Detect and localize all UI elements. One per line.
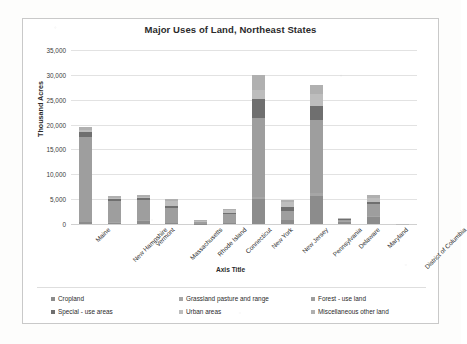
bar-segment [252, 90, 265, 99]
stacked-bar[interactable] [338, 218, 351, 224]
bar-slot [186, 50, 215, 224]
plot-area: 05,00010,00015,00020,00025,00030,00035,0… [71, 50, 417, 224]
y-axis-tick-label: 0 [62, 221, 66, 228]
stacked-bar[interactable] [310, 85, 323, 224]
bar-slot [71, 50, 100, 224]
gridline [71, 224, 417, 225]
y-axis-tick-label: 5,000 [50, 196, 66, 203]
bar-segment [310, 85, 323, 94]
y-axis-tick-label: 20,000 [46, 121, 66, 128]
legend-swatch-icon [179, 297, 183, 301]
stacked-bar[interactable] [108, 196, 121, 224]
legend-swatch-icon [311, 297, 315, 301]
bar-segment [281, 211, 294, 220]
x-axis-tick-label: New Hampshire [132, 226, 169, 263]
y-axis-tick-label: 25,000 [46, 96, 66, 103]
legend-label: Forest - use land [318, 295, 366, 302]
legend-label: Miscellaneous other land [318, 308, 389, 315]
legend-swatch-icon [179, 310, 183, 314]
stacked-bar[interactable] [137, 195, 150, 224]
stacked-bar[interactable] [79, 127, 92, 224]
x-axis-tick-label: New Jersey [301, 226, 330, 255]
bar-slot [330, 50, 359, 224]
legend-label: Special - use areas [58, 308, 113, 315]
stacked-bar[interactable] [165, 199, 178, 224]
bar-segment [223, 223, 236, 224]
bar-segment [281, 220, 294, 224]
bar-segment [310, 106, 323, 120]
bar-segment [252, 75, 265, 90]
bar-segment [310, 120, 323, 193]
x-axis-tick-label: Massachusetts [188, 226, 223, 261]
bar-segment [310, 196, 323, 224]
bar-segment [223, 214, 236, 222]
stacked-bar[interactable] [223, 209, 236, 224]
x-axis-title: Axis Title [23, 266, 438, 273]
legend-item[interactable]: Grassland pasture and range [179, 295, 311, 302]
stacked-bar[interactable] [281, 200, 294, 224]
chart-container: Major Uses of Land, Northeast States Tho… [22, 18, 439, 324]
bar-segment [79, 137, 92, 222]
bar-segment [108, 201, 121, 223]
bar-segment [137, 221, 150, 224]
bar-segment [165, 223, 178, 224]
legend-label: Grassland pasture and range [186, 295, 269, 302]
bar-segment [252, 118, 265, 197]
legend-label: Cropland [58, 295, 84, 302]
bar-slot [273, 50, 302, 224]
legend-swatch-icon [311, 310, 315, 314]
x-axis-tick-label: New York [270, 226, 294, 250]
x-axis-tick-label: Maryland [385, 226, 409, 250]
x-axis-tick-label: Maine [95, 226, 112, 243]
bar-slot [100, 50, 129, 224]
bar-segment [310, 94, 323, 106]
chart-legend: CroplandGrassland pasture and rangeFores… [51, 292, 411, 318]
legend-divider [37, 287, 426, 288]
legend-item[interactable]: Cropland [51, 295, 179, 302]
bar-segment [165, 208, 178, 222]
bar-segment [79, 222, 92, 224]
stacked-bar[interactable] [367, 195, 380, 224]
legend-item[interactable]: Urban areas [179, 308, 311, 315]
legend-label: Urban areas [186, 308, 221, 315]
legend-swatch-icon [51, 297, 55, 301]
bar-slot [244, 50, 273, 224]
x-axis-labels: MaineNew HampshireVermontMassachusettsRh… [71, 226, 417, 286]
legend-item[interactable]: Special - use areas [51, 308, 179, 315]
y-axis-tick-label: 35,000 [46, 47, 66, 54]
legend-swatch-icon [51, 310, 55, 314]
bar-segment [367, 204, 380, 216]
bar-slot [129, 50, 158, 224]
bar-slot [359, 50, 388, 224]
bar-slot [215, 50, 244, 224]
chart-title: Major Uses of Land, Northeast States [23, 24, 438, 35]
legend-item[interactable]: Miscellaneous other land [311, 308, 411, 315]
bar-segment [252, 99, 265, 117]
bar-segment [137, 200, 150, 220]
bar-segment [108, 223, 121, 224]
bar-slot [302, 50, 331, 224]
bar-segment [252, 199, 265, 224]
bar-slot [157, 50, 186, 224]
y-axis-tick-label: 10,000 [46, 171, 66, 178]
x-axis-tick-label: District of Columbia [423, 226, 467, 270]
y-axis-tick-label: 30,000 [46, 71, 66, 78]
bar-slot [388, 50, 417, 224]
stacked-bar[interactable] [194, 220, 207, 224]
y-axis-tick-label: 15,000 [46, 146, 66, 153]
bar-group [71, 50, 417, 224]
bar-segment [338, 222, 351, 224]
y-axis-title: Thousand Acres [36, 81, 45, 137]
stacked-bar[interactable] [252, 75, 265, 224]
bar-segment [367, 217, 380, 224]
legend-item[interactable]: Forest - use land [311, 295, 411, 302]
